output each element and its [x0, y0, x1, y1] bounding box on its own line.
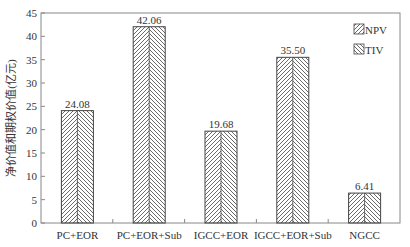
bars: 24.0842.0619.6835.506.41: [61, 14, 380, 223]
y-tick-label: 45: [26, 7, 38, 19]
y-tick-label: 30: [26, 77, 38, 89]
legend-swatch: [354, 44, 364, 54]
legend-item-tiv: TIV: [354, 44, 383, 56]
bar-tiv-half: [149, 27, 165, 223]
bar-npv-half: [61, 111, 77, 223]
bar-tiv-half: [221, 131, 237, 223]
legend: NPVTIV: [354, 24, 387, 56]
x-tick-label: PC+EOR: [57, 229, 99, 241]
bar-npv-half: [349, 193, 365, 223]
y-tick-label: 40: [26, 30, 38, 42]
legend-item-npv: NPV: [354, 24, 387, 36]
bar-value-label: 35.50: [280, 44, 305, 56]
bar: 35.50: [277, 44, 309, 223]
legend-label: NPV: [365, 24, 387, 36]
x-tick-label: IGCC+EOR: [194, 229, 249, 241]
y-tick-label: 10: [26, 170, 38, 182]
y-tick-label: 20: [26, 124, 38, 136]
bar-npv-half: [205, 131, 221, 223]
bar-tiv-half: [293, 57, 309, 223]
bar-chart: 051015202530354045 PC+EORPC+EOR+SubIGCC+…: [0, 0, 410, 247]
y-tick-label: 0: [32, 217, 38, 229]
y-tick-label: 15: [26, 147, 38, 159]
y-tick-label: 5: [32, 194, 38, 206]
legend-swatch: [354, 24, 364, 34]
y-tick-label: 35: [26, 54, 38, 66]
x-tick-label: PC+EOR+Sub: [117, 229, 182, 241]
bar-npv-half: [133, 27, 149, 223]
bar: 24.08: [61, 98, 93, 223]
bar-value-label: 42.06: [137, 14, 162, 26]
bar: 19.68: [205, 118, 237, 223]
legend-label: TIV: [365, 44, 383, 56]
y-axis-label: 净价值和期权价值(亿元): [4, 59, 18, 177]
bar: 6.41: [349, 180, 381, 223]
y-axis: 051015202530354045: [26, 7, 45, 229]
y-tick-label: 25: [26, 100, 38, 112]
bar-tiv-half: [365, 193, 381, 223]
bar-tiv-half: [77, 111, 93, 223]
x-tick-label: IGCC+EOR+Sub: [254, 229, 332, 241]
x-tick-label: NGCC: [349, 229, 380, 241]
bar: 42.06: [133, 14, 165, 223]
bar-npv-half: [277, 57, 293, 223]
bar-value-label: 6.41: [355, 180, 374, 192]
bar-value-label: 19.68: [209, 118, 234, 130]
bar-value-label: 24.08: [65, 98, 90, 110]
